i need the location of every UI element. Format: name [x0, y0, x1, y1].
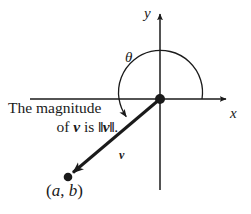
y-axis-label: y	[144, 6, 151, 21]
point-label-close-paren: )	[77, 181, 83, 200]
caption-line-2: of v is ‖v‖.	[8, 117, 136, 136]
theta-angle-label: θ	[125, 50, 132, 65]
caption-is-text: is	[80, 118, 98, 135]
norm-vector-v: v	[103, 118, 110, 135]
terminal-point-dot	[64, 173, 73, 182]
magnitude-caption: The magnitude of v is ‖v‖.	[8, 98, 136, 137]
vector-v-label: v	[119, 149, 124, 161]
vector-diagram-figure: y x θ v (a, b) The magnitude of v is ‖v‖…	[0, 0, 251, 214]
caption-line-1: The magnitude	[8, 98, 136, 117]
x-axis-label: x	[230, 106, 237, 121]
caption-period: .	[114, 118, 118, 135]
caption-of-text: of	[56, 118, 73, 135]
terminal-point-label: (a, b)	[46, 182, 83, 199]
point-label-separator: ,	[60, 181, 69, 200]
origin-point-dot	[155, 94, 165, 104]
point-label-b: b	[69, 181, 78, 200]
point-label-a: a	[52, 181, 61, 200]
